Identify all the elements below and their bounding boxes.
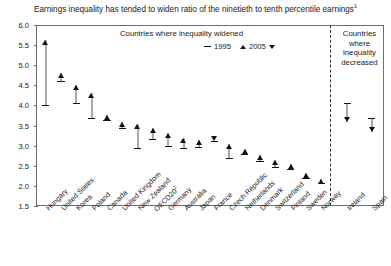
marker-2005-triangle-up [288, 164, 294, 169]
marker-1995-dash [103, 120, 110, 121]
marker-2005-triangle-up [272, 160, 278, 165]
marker-2005-triangle-up [180, 138, 186, 143]
earnings-inequality-chart: Earnings inequality has tended to widen … [0, 0, 391, 266]
marker-2005-triangle-up [242, 149, 248, 154]
marker-2005-triangle-up [58, 73, 64, 78]
x-axis-labels: HungaryUnited StatesKoreaPolandCanadaUni… [0, 206, 391, 266]
marker-1995-dash [73, 103, 80, 104]
marker-2005-triangle-up [88, 93, 94, 98]
chart-title-footnote: 1 [354, 3, 357, 9]
triangle-up-icon [240, 45, 246, 49]
y-axis-tick-label: 3.5 [18, 121, 29, 130]
marker-2005-triangle-up [150, 128, 156, 133]
marker-2005-triangle-up [119, 122, 125, 127]
dash-icon [204, 46, 211, 47]
y-axis-tick-label: 4.0 [18, 101, 29, 110]
marker-1995-dash [88, 118, 95, 119]
marker-2005-triangle-up [42, 40, 48, 45]
y-axis-tick-label: 2.0 [18, 181, 29, 190]
marker-1995-dash [195, 147, 202, 148]
marker-2005-triangle-up [196, 140, 202, 145]
right-panel-header-line: decreased [335, 58, 384, 68]
triangle-down-icon [269, 45, 275, 49]
legend-item-1995: 1995 [204, 42, 231, 51]
marker-2005-triangle-down [369, 127, 375, 132]
marker-connector-line [45, 40, 46, 105]
right-panel-header-line: where [335, 39, 384, 49]
legend-label-2005: 2005 [249, 42, 266, 51]
marker-1995-dash [226, 158, 233, 159]
chart-title-text: Earnings inequality has tended to widen … [34, 5, 354, 14]
marker-2005-triangle-down [344, 117, 350, 122]
left-panel-header: Countries where inequality widened [36, 29, 327, 39]
y-axis: 1.52.02.53.03.54.04.55.05.56.0 [0, 25, 34, 206]
marker-2005-triangle-up [73, 85, 79, 90]
marker-1995-dash [211, 141, 218, 142]
marker-2005-triangle-up [134, 124, 140, 129]
right-panel-header-line: inequality [335, 48, 384, 58]
y-axis-tick-label: 3.0 [18, 141, 29, 150]
marker-2005-triangle-up [257, 155, 263, 160]
marker-2005-triangle-up [318, 179, 324, 184]
marker-2005-triangle-up [104, 115, 110, 120]
marker-2005-triangle-up [226, 144, 232, 149]
chart-legend: 1995 2005 [204, 42, 275, 51]
marker-1995-dash [134, 148, 141, 149]
marker-1995-dash [368, 118, 375, 119]
y-axis-tick-label: 6.0 [18, 21, 29, 30]
y-axis-tick-label: 5.0 [18, 61, 29, 70]
marker-1995-dash [344, 103, 351, 104]
panel-divider [330, 25, 331, 206]
right-panel-header-line: Countries [335, 29, 384, 39]
y-axis-tick-label: 5.5 [18, 41, 29, 50]
marker-2005-triangle-down [211, 136, 217, 141]
chart-title: Earnings inequality has tended to widen … [0, 1, 391, 15]
marker-1995-dash [119, 128, 126, 129]
marker-1995-dash [256, 161, 263, 162]
legend-item-2005: 2005 [240, 42, 275, 51]
y-axis-tick-label: 2.5 [18, 161, 29, 170]
legend-label-1995: 1995 [214, 42, 231, 51]
right-panel-header: Countrieswhereinequalitydecreased [335, 29, 384, 67]
marker-1995-dash [42, 105, 49, 106]
marker-2005-triangle-up [165, 133, 171, 138]
marker-1995-dash [149, 139, 156, 140]
marker-1995-dash [57, 81, 64, 82]
marker-1995-dash [272, 167, 279, 168]
marker-1995-dash [180, 148, 187, 149]
y-axis-tick-label: 4.5 [18, 81, 29, 90]
marker-1995-dash [165, 146, 172, 147]
marker-2005-triangle-up [303, 173, 309, 178]
